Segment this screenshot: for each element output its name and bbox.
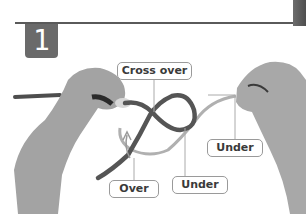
label-under-right: Under	[207, 139, 263, 157]
label-cross-over: Cross over	[117, 62, 192, 80]
rope-left-tail	[15, 95, 60, 97]
label-over: Over	[109, 180, 159, 198]
label-under-bottom: Under	[172, 176, 228, 194]
right-hand	[236, 62, 306, 214]
